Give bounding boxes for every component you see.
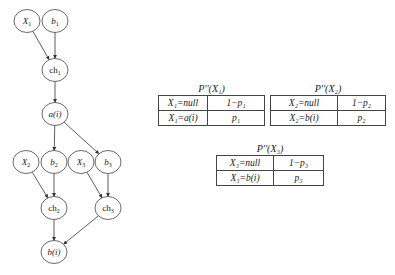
bayesian-network-graph: X1b1ch1a(i)X2b2X3b3ch2ch3b(i) — [0, 0, 140, 275]
table-cell: 1−p₃ — [274, 156, 324, 171]
table-title: P''(X₂) — [270, 83, 386, 94]
graph-node-ch1: ch1 — [42, 59, 68, 82]
edge-arrow — [64, 122, 99, 154]
table-title: P''(X₃) — [216, 143, 324, 154]
svg-text:b(i): b(i) — [48, 247, 61, 257]
graph-nodes: X1b1ch1a(i)X2b2X3b3ch2ch3b(i) — [13, 10, 121, 264]
graph-node-ch2: ch2 — [41, 197, 67, 220]
graph-node-a-i: a(i) — [42, 103, 68, 126]
table-cell: p₃ — [274, 171, 324, 186]
edge-arrow — [54, 125, 55, 150]
table-row: X₁=a(i) p₁ — [159, 111, 265, 126]
edge-arrow — [33, 31, 49, 59]
graph-node-b3: b3 — [95, 151, 121, 174]
svg-text:a(i): a(i) — [49, 109, 62, 119]
edge-arrow — [64, 216, 99, 244]
table-cell: X₃=b(i) — [217, 171, 274, 186]
probability-table-x1: P''(X₁) X₁=null 1−p₁ X₁=a(i) p₁ — [158, 83, 265, 126]
table-cell: p₁ — [208, 111, 265, 126]
table-row: X₃=b(i) p₃ — [217, 171, 324, 186]
table-row: X₁=null 1−p₁ — [159, 96, 265, 111]
table-cell: 1−p₂ — [338, 96, 386, 111]
graph-node-b1: b1 — [42, 10, 68, 33]
graph-node-x2: X2 — [13, 151, 39, 174]
probability-table-x2: P''(X₂) X₂=null 1−p₂ X₂=b(i) p₂ — [270, 83, 386, 126]
table-title: P''(X₁) — [158, 83, 265, 94]
probability-table-x3: P''(X₃) X₃=null 1−p₃ X₃=b(i) p₃ — [216, 143, 324, 186]
table-cell: X₁=a(i) — [159, 111, 208, 126]
graph-node-ch3: ch3 — [95, 197, 121, 220]
table-cell: X₁=null — [159, 96, 208, 111]
edge-arrow — [87, 172, 102, 198]
edge-arrow — [32, 172, 48, 198]
table-row: X₂=b(i) p₂ — [271, 111, 386, 126]
table-cell: X₃=null — [217, 156, 274, 171]
table-row: X₂=null 1−p₂ — [271, 96, 386, 111]
graph-node-b2: b2 — [41, 151, 67, 174]
graph-node-x3: X3 — [68, 151, 94, 174]
table-cell: 1−p₁ — [208, 96, 265, 111]
graph-node-b-i: b(i) — [41, 241, 67, 264]
table-cell: X₂=null — [271, 96, 338, 111]
table-cell: p₂ — [338, 111, 386, 126]
table-cell: X₂=b(i) — [271, 111, 338, 126]
graph-node-x1: X1 — [14, 10, 40, 33]
table-row: X₃=null 1−p₃ — [217, 156, 324, 171]
